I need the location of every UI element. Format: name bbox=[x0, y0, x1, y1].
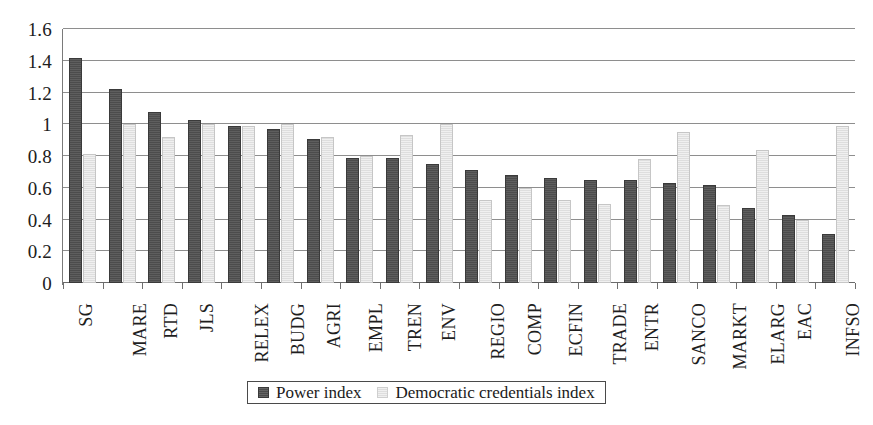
y-axis-tick-label: 1.2 bbox=[28, 84, 52, 103]
bar-power-index bbox=[505, 175, 518, 283]
chart-legend: Power indexDemocratic credentials index bbox=[247, 381, 606, 404]
x-axis-tick bbox=[459, 283, 460, 289]
x-axis-label-slot: INFSO bbox=[815, 290, 855, 376]
x-axis-tick bbox=[182, 283, 183, 289]
x-axis-label-slot: ENTR bbox=[617, 290, 657, 376]
legend-label: Democratic credentials index bbox=[395, 384, 594, 401]
y-axis-tick-label: 0.4 bbox=[28, 211, 52, 230]
x-axis-label-slot: MARE bbox=[103, 290, 143, 376]
x-axis-tick bbox=[855, 283, 856, 289]
bar-group bbox=[182, 29, 222, 283]
x-axis-category-label: ENV bbox=[440, 303, 458, 341]
x-axis-label-slot: SG bbox=[63, 290, 103, 376]
bar-democratic-credentials-index bbox=[440, 124, 453, 283]
bar-democratic-credentials-index bbox=[123, 124, 136, 283]
x-axis-tick bbox=[419, 283, 420, 289]
bar-democratic-credentials-index bbox=[519, 188, 532, 283]
x-axis-category-label: RTD bbox=[162, 303, 180, 339]
bars-layer bbox=[63, 29, 855, 283]
bar-democratic-credentials-index bbox=[400, 135, 413, 283]
bar-democratic-credentials-index bbox=[242, 126, 255, 283]
bar-power-index bbox=[782, 215, 795, 283]
legend-label: Power index bbox=[276, 384, 361, 401]
bar-democratic-credentials-index bbox=[638, 159, 651, 283]
bar-democratic-credentials-index bbox=[677, 132, 690, 283]
y-axis-tick-label: 0 bbox=[42, 274, 52, 293]
bar-group bbox=[340, 29, 380, 283]
x-axis-label-slot: EAC bbox=[776, 290, 816, 376]
x-axis-label-slot: MARKT bbox=[697, 290, 737, 376]
x-axis-tick bbox=[578, 283, 579, 289]
x-axis-label-slot: RTD bbox=[142, 290, 182, 376]
bar-democratic-credentials-index bbox=[360, 156, 373, 283]
bar-power-index bbox=[148, 112, 161, 283]
bar-power-index bbox=[188, 120, 201, 284]
x-axis-category-label: INFSO bbox=[844, 303, 862, 357]
bar-group bbox=[103, 29, 143, 283]
x-axis-label-slot: TRADE bbox=[578, 290, 618, 376]
legend-entry: Power index bbox=[258, 384, 361, 401]
x-axis-label-slot: RELEX bbox=[221, 290, 261, 376]
x-axis-label-slot: BUDG bbox=[261, 290, 301, 376]
bar-democratic-credentials-index bbox=[836, 126, 849, 283]
x-axis-label-slot: SANCO bbox=[657, 290, 697, 376]
bar-power-index bbox=[624, 180, 637, 283]
bar-democratic-credentials-index bbox=[281, 124, 294, 283]
y-axis: 1.61.41.210.80.60.40.20 bbox=[0, 0, 60, 300]
x-axis-label-slot: JLS bbox=[182, 290, 222, 376]
bar-group bbox=[419, 29, 459, 283]
x-axis-tick bbox=[221, 283, 222, 289]
bar-democratic-credentials-index bbox=[479, 200, 492, 283]
bar-group bbox=[380, 29, 420, 283]
x-axis-label-slot: REGIO bbox=[459, 290, 499, 376]
x-axis-tick bbox=[697, 283, 698, 289]
bar-power-index bbox=[426, 164, 439, 283]
x-axis-tick bbox=[142, 283, 143, 289]
bar-power-index bbox=[267, 129, 280, 283]
bar-group bbox=[538, 29, 578, 283]
y-axis-tick-label: 0.6 bbox=[28, 179, 52, 198]
bar-group bbox=[261, 29, 301, 283]
y-axis-tick-label: 0.2 bbox=[28, 242, 52, 261]
bar-power-index bbox=[307, 139, 320, 283]
bar-power-index bbox=[663, 183, 676, 283]
x-axis-label-slot: ELARG bbox=[736, 290, 776, 376]
bar-democratic-credentials-index bbox=[558, 200, 571, 283]
x-axis-category-label: JLS bbox=[198, 303, 216, 332]
bar-group bbox=[657, 29, 697, 283]
bar-power-index bbox=[465, 170, 478, 283]
legend-swatch-icon bbox=[258, 387, 269, 398]
legend-entry: Democratic credentials index bbox=[377, 384, 594, 401]
bar-power-index bbox=[386, 158, 399, 283]
bar-group bbox=[499, 29, 539, 283]
y-axis-tick-label: 1 bbox=[42, 115, 52, 134]
bar-group bbox=[578, 29, 618, 283]
x-axis-tick bbox=[538, 283, 539, 289]
x-axis-ticks bbox=[63, 283, 855, 290]
x-axis-tick bbox=[617, 283, 618, 289]
bar-power-index bbox=[742, 208, 755, 283]
x-axis-tick bbox=[63, 283, 64, 289]
bar-democratic-credentials-index bbox=[796, 220, 809, 284]
bar-power-index bbox=[584, 180, 597, 283]
bar-group bbox=[736, 29, 776, 283]
bar-power-index bbox=[703, 185, 716, 283]
bar-group bbox=[459, 29, 499, 283]
y-axis-tick-label: 1.6 bbox=[28, 20, 52, 39]
bar-power-index bbox=[822, 234, 835, 283]
bar-group bbox=[221, 29, 261, 283]
y-axis-tick-label: 0.8 bbox=[28, 147, 52, 166]
y-axis-tick-label: 1.4 bbox=[28, 52, 52, 71]
legend-swatch-icon bbox=[377, 387, 388, 398]
bar-group bbox=[617, 29, 657, 283]
x-axis-category-label: EAC bbox=[796, 303, 814, 340]
x-axis-label-slot: COMP bbox=[499, 290, 539, 376]
x-axis-labels: SGMARERTDJLSRELEXBUDGAGRIEMPLTRENENVREGI… bbox=[63, 290, 855, 376]
bar-democratic-credentials-index bbox=[598, 204, 611, 283]
bar-power-index bbox=[228, 126, 241, 283]
bar-power-index bbox=[544, 178, 557, 283]
plot-area bbox=[63, 29, 855, 283]
bar-group bbox=[776, 29, 816, 283]
x-axis-tick bbox=[301, 283, 302, 289]
x-axis-tick bbox=[380, 283, 381, 289]
